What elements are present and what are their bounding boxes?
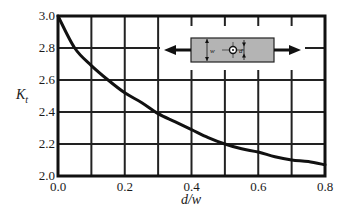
y-tick-label: 2.8 (39, 40, 55, 55)
d-label: d (239, 47, 243, 55)
y-axis-label: Kt (15, 87, 28, 105)
x-tick-label: 0.6 (250, 179, 267, 194)
x-tick-label: 0.2 (117, 179, 133, 194)
kt-chart: wd 0.00.20.40.60.8 2.02.22.42.62.83.0 d/… (0, 0, 350, 214)
y-tick-label: 2.2 (39, 136, 55, 151)
y-tick-labels: 2.02.22.42.62.83.0 (39, 8, 56, 183)
y-tick-label: 2.0 (39, 168, 55, 183)
y-tick-label: 2.4 (39, 104, 56, 119)
hole-center-dot (232, 49, 234, 51)
plate-with-hole-inset: wd (160, 26, 305, 70)
y-tick-label: 3.0 (39, 8, 55, 23)
x-axis-label: d/w (181, 192, 202, 207)
w-label: w (210, 47, 215, 55)
y-tick-label: 2.6 (39, 72, 56, 87)
x-tick-label: 0.8 (317, 179, 333, 194)
